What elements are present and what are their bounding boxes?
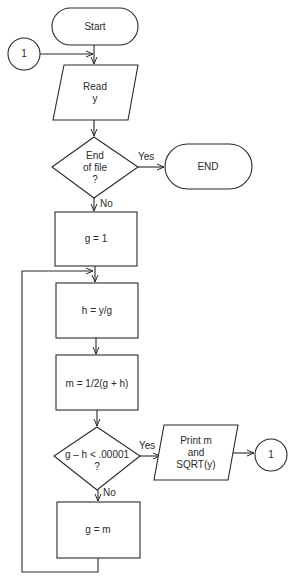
print-label: Print m and SQRT(y) [176, 435, 215, 471]
connector-out-label: 1 [268, 449, 274, 461]
converge-label: g – h < .00001 ? [65, 449, 129, 473]
converge-no-label: No [103, 487, 116, 498]
read-label: Read y [83, 81, 107, 105]
h-calc-label: h = y/g [82, 305, 112, 317]
m-calc-label: m = 1/2(g + h) [66, 378, 129, 390]
flowchart-svg [0, 0, 298, 585]
end-label: END [197, 161, 218, 173]
connector-in-label: 1 [21, 48, 27, 60]
eof-label: End of file ? [83, 150, 107, 186]
converge-yes-label: Yes [139, 440, 155, 451]
eof-yes-label: Yes [138, 151, 154, 162]
g-init-label: g = 1 [85, 233, 108, 245]
g-update-label: g = m [85, 524, 110, 536]
flowchart-canvas: Start 1 Read y End of file ? END g = 1 h… [0, 0, 298, 585]
start-label: Start [84, 21, 105, 33]
eof-no-label: No [100, 198, 113, 209]
